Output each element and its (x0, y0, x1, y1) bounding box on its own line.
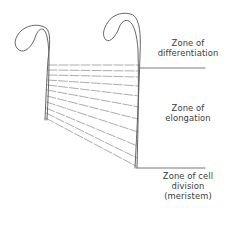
label-line: elongation (148, 113, 228, 123)
label-line: differentiation (148, 48, 228, 58)
zone-of-cell-division-label: Zone of cell division (meristem) (148, 171, 228, 201)
label-line: division (148, 181, 228, 191)
ink-mark-lines (46, 65, 140, 166)
label-line: Zone of cell (148, 171, 228, 181)
zone-of-differentiation-label: Zone of differentiation (148, 38, 228, 58)
label-line: Zone of (148, 38, 228, 48)
label-line: (meristem) (148, 191, 228, 201)
label-line: Zone of (148, 103, 228, 113)
zone-of-elongation-label: Zone of elongation (148, 103, 228, 123)
left-shoot-before (15, 25, 49, 120)
